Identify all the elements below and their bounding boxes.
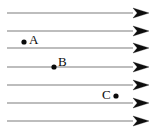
arrow-head-icon bbox=[133, 62, 149, 72]
point-label-b: B bbox=[58, 55, 67, 68]
point-marker-dot bbox=[21, 39, 26, 44]
arrow-heads-group bbox=[133, 8, 149, 126]
point-marker-dot bbox=[51, 64, 56, 69]
point-marker-dot bbox=[113, 93, 118, 98]
field-lines-svg bbox=[0, 0, 157, 138]
arrow-head-icon bbox=[133, 98, 149, 108]
arrow-head-icon bbox=[133, 8, 149, 18]
point-label-c: C bbox=[102, 88, 111, 101]
field-lines-group bbox=[7, 13, 133, 121]
point-label-a: A bbox=[29, 33, 38, 46]
arrow-head-icon bbox=[133, 116, 149, 126]
arrow-head-icon bbox=[133, 26, 149, 36]
arrow-head-icon bbox=[133, 80, 149, 90]
field-diagram-canvas: ABC bbox=[0, 0, 157, 138]
arrow-head-icon bbox=[133, 43, 149, 53]
